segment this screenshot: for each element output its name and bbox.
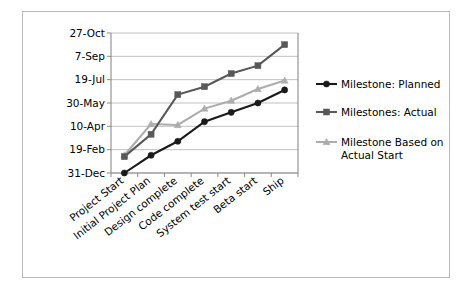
data-point-marker-square <box>228 71 234 77</box>
data-point-marker-circle <box>255 100 261 106</box>
series-milestone-planned <box>121 87 287 176</box>
data-point-marker-square <box>175 92 181 98</box>
legend-label: Milestone Based on <box>341 136 443 148</box>
y-tick-label: 19-Jul <box>75 73 105 85</box>
data-point-marker-circle <box>148 152 154 158</box>
y-axis-tick-labels: 31-Dec19-Feb10-Apr30-May19-Jul7-Sep27-Oc… <box>66 27 111 179</box>
y-tick-label: 30-May <box>66 97 105 109</box>
y-tick-label: 27-Oct <box>69 27 105 39</box>
legend-label: Milestone: Planned <box>341 78 440 90</box>
data-point-marker-circle <box>175 138 181 144</box>
x-tick-label: Ship <box>260 174 286 198</box>
y-tick-label: 7-Sep <box>75 50 106 62</box>
y-tick-label: 31-Dec <box>68 167 106 179</box>
x-tick-marks <box>111 173 298 177</box>
milestone-line-chart: 31-Dec19-Feb10-Apr30-May19-Jul7-Sep27-Oc… <box>23 12 451 279</box>
data-point-marker-circle <box>121 170 127 176</box>
legend-item-milestones-actual[interactable]: Milestones: Actual <box>316 106 437 118</box>
y-tick-label: 19-Feb <box>69 143 105 155</box>
data-point-marker-circle <box>323 81 329 87</box>
data-point-marker-square <box>324 109 330 115</box>
legend-item-milestone-based-on-actual-start[interactable]: Milestone Based onActual Start <box>316 136 443 161</box>
legend-label: Milestones: Actual <box>341 106 437 118</box>
x-axis-tick-labels: Project StartInitial Project PlanDesign … <box>67 174 286 242</box>
y-tick-label: 10-Apr <box>70 120 106 132</box>
legend-label: Actual Start <box>341 149 403 161</box>
data-point-marker-square <box>255 63 261 69</box>
data-point-marker-triangle <box>281 77 288 83</box>
chart-legend: Milestone: PlannedMilestones: ActualMile… <box>316 78 443 161</box>
data-point-marker-square <box>202 84 208 90</box>
data-point-marker-square <box>282 42 288 48</box>
data-point-marker-circle <box>201 119 207 125</box>
data-point-marker-circle <box>228 109 234 115</box>
data-series-group <box>121 42 288 176</box>
grid-lines <box>111 33 298 173</box>
data-point-marker-circle <box>282 87 288 93</box>
legend-item-milestone-planned[interactable]: Milestone: Planned <box>316 78 440 90</box>
chart-frame: 31-Dec19-Feb10-Apr30-May19-Jul7-Sep27-Oc… <box>22 11 450 278</box>
data-point-marker-square <box>148 131 154 137</box>
chart-canvas: 31-Dec19-Feb10-Apr30-May19-Jul7-Sep27-Oc… <box>23 12 451 279</box>
data-point-marker-square <box>121 154 127 160</box>
